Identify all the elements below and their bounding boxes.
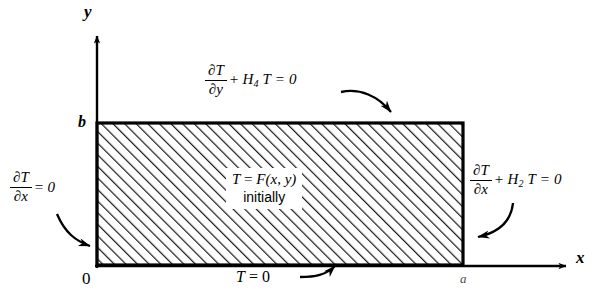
- x-axis-label: x: [576, 249, 585, 266]
- top-bc-tail: T = 0: [263, 71, 297, 87]
- left-boundary-condition-label: ∂T ∂x = 0: [10, 170, 55, 205]
- origin-label: 0: [82, 270, 91, 287]
- bottom-bc-operator: =: [245, 268, 262, 285]
- left-bc-remainder: = 0: [35, 180, 55, 195]
- bottom-bc-arrow: [300, 266, 335, 277]
- top-boundary-condition-label: ∂T ∂y + H4 T = 0: [205, 63, 297, 98]
- initial-condition-function: F(x, y): [256, 171, 296, 187]
- top-bc-subscript: 4: [253, 78, 258, 89]
- left-bc-tail: 0: [47, 179, 55, 195]
- right-bc-numerator: ∂T: [470, 163, 492, 179]
- right-bc-subscript: 2: [518, 178, 523, 189]
- initial-condition-qualifier: initially: [232, 189, 296, 207]
- diagram-svg: [0, 0, 616, 302]
- bottom-bc-variable: T: [236, 268, 245, 285]
- initial-condition-operator: =: [240, 171, 256, 187]
- left-bc-fraction: ∂T ∂x: [10, 170, 32, 205]
- right-bc-remainder: + H2 T = 0: [495, 172, 562, 189]
- initial-condition-equation: T = F(x, y): [232, 170, 296, 189]
- y-tick-label-b: b: [78, 114, 86, 130]
- top-bc-arrow: [341, 91, 391, 112]
- right-bc-fraction: ∂T ∂x: [470, 163, 492, 198]
- top-bc-fraction: ∂T ∂y: [205, 63, 227, 98]
- x-tick-label-a: a: [460, 272, 467, 285]
- right-bc-denominator: ∂x: [471, 182, 491, 198]
- right-bc-arrow: [478, 203, 513, 237]
- figure-canvas: y x b 0 a ∂T ∂y + H4 T = 0 ∂T ∂x + H2 T …: [0, 0, 616, 302]
- top-bc-numerator: ∂T: [205, 63, 227, 79]
- top-bc-coefficient: H: [242, 71, 253, 87]
- right-bc-operator: +: [495, 171, 504, 187]
- y-axis-label: y: [84, 3, 92, 20]
- bottom-boundary-condition-label: T = 0: [236, 269, 270, 285]
- left-bc-arrow: [57, 214, 90, 246]
- left-bc-operator: =: [35, 179, 44, 195]
- initial-condition-caption: T = F(x, y) initially: [226, 168, 302, 209]
- top-bc-remainder: + H4 T = 0: [230, 72, 297, 89]
- left-bc-numerator: ∂T: [10, 170, 32, 186]
- bottom-bc-value: 0: [262, 268, 270, 285]
- right-bc-coefficient: H: [507, 171, 518, 187]
- right-boundary-condition-label: ∂T ∂x + H2 T = 0: [470, 163, 562, 198]
- top-bc-operator: +: [230, 71, 239, 87]
- top-bc-denominator: ∂y: [206, 82, 226, 98]
- right-bc-tail: T = 0: [528, 171, 562, 187]
- left-bc-denominator: ∂x: [11, 189, 31, 205]
